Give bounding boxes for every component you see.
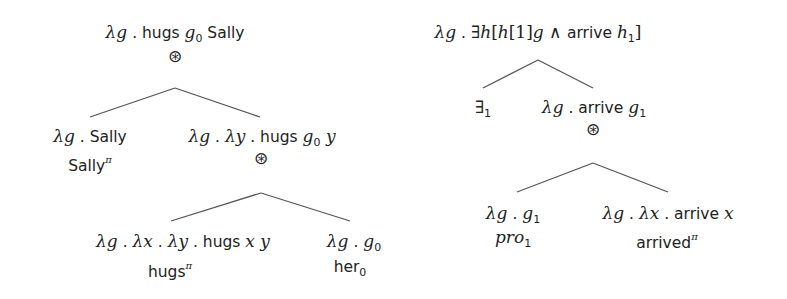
node-arrived-verb-lexical-item: arrivedπ <box>636 227 697 253</box>
tree-arrive-top-left-branch <box>483 60 538 88</box>
node-hugs-verb-segment: λy <box>168 231 188 251</box>
node-hugs-verb-segment: λx <box>133 231 153 251</box>
node-hugs-g0-y-segment: 0 <box>314 136 321 149</box>
node-arrived-verb-segment: . arrive <box>659 205 724 223</box>
node-sally-lexical-item-segment: Sally <box>68 157 105 175</box>
node-hugs-g0-y-segment: y <box>321 126 336 146</box>
node-exists1: ∃1 <box>475 97 491 124</box>
node-arrived-verb-segment: λg <box>602 203 624 223</box>
node-exists1-segment: 1 <box>484 107 491 120</box>
tree-hugs-top-left-branch <box>90 88 175 117</box>
node-her0-lexical-item-segment: 0 <box>359 266 366 279</box>
tree-arrive-root-segment: arrive <box>567 24 617 42</box>
node-sally: λg . Sally <box>53 126 127 147</box>
node-hugs-g0-y-segment: . <box>210 128 225 146</box>
tree-arrive-root: λg . ∃h[h[1]g ∧ arrive h1] <box>435 22 642 49</box>
tree-arrive-root-segment: h <box>617 22 628 42</box>
node-arrived-verb: λg . λx . arrive x <box>602 203 733 224</box>
node-arrived-verb-segment: λx <box>639 203 659 223</box>
node-arrive-g1-composition-operator-icon: ⊛ <box>586 120 600 138</box>
node-hugs-g0-y-composition-operator-icon: ⊛ <box>254 149 268 167</box>
node-pro1-segment: 1 <box>533 213 540 226</box>
node-pro1-lexical-item-segment: pro <box>495 227 524 247</box>
tree-arrive-sub-left-branch <box>517 163 593 192</box>
tree-hugs-root-segment: g <box>185 22 196 42</box>
node-her0-segment: 0 <box>374 241 381 254</box>
node-pro1-lexical-item: pro1 <box>495 227 531 254</box>
tree-arrive-root-segment: g <box>533 22 544 42</box>
node-exists1-segment: ∃ <box>475 97 484 117</box>
tree-arrive-root-segment: λg <box>435 22 457 42</box>
tree-hugs-sub-left-branch <box>171 193 261 221</box>
node-sally-lexical-item: Sallyπ <box>68 150 112 176</box>
node-pro1-segment: λg <box>486 203 508 223</box>
node-sally-segment: λg <box>53 126 75 146</box>
node-hugs-verb-lexical-item-segment: hugs <box>148 263 186 281</box>
node-hugs-g0-y-segment: . hugs <box>245 128 302 146</box>
node-pro1: λg . g1 <box>486 203 540 230</box>
node-sally-segment: . Sally <box>75 128 127 146</box>
node-arrived-verb-lexical-item-segment: π <box>691 231 698 242</box>
tree-arrive-root-segment: ∧ <box>544 22 567 42</box>
node-hugs-verb-lexical-item: hugsπ <box>148 256 192 282</box>
tree-arrive-root-segment: h <box>498 22 509 42</box>
node-her0-lexical-item: her0 <box>334 256 367 283</box>
node-arrived-verb-segment: . <box>624 205 639 223</box>
tree-arrive-root-segment: . <box>456 24 471 42</box>
tree-hugs-root: λg . hugs g0 Sally <box>106 22 245 49</box>
tree-hugs-top-right-branch <box>175 88 260 117</box>
tree-hugs-root-segment: λg <box>106 22 128 42</box>
tree-hugs-root-composition-operator-icon: ⊛ <box>168 47 182 65</box>
tree-hugs-root-segment: 0 <box>195 32 202 45</box>
derivation-diagram: λg . hugs g0 Sally⊛λg . SallySallyπλg . … <box>0 0 787 299</box>
node-pro1-lexical-item-segment: 1 <box>524 237 531 250</box>
node-her0-segment: g <box>363 231 374 251</box>
node-hugs-verb-segment: . <box>153 233 168 251</box>
tree-arrive-root-segment: [1] <box>509 22 533 42</box>
tree-arrive-root-segment: h <box>480 22 491 42</box>
node-hugs-g0-y-segment: λg <box>188 126 210 146</box>
node-hugs-g0-y-segment: g <box>303 126 314 146</box>
tree-arrive-sub-right-branch <box>593 163 668 192</box>
node-pro1-segment: . <box>508 205 523 223</box>
node-hugs-verb-segment: λg <box>96 231 118 251</box>
node-her0: λg . g0 <box>327 231 381 258</box>
node-hugs-g0-y-segment: λy <box>225 126 245 146</box>
tree-arrive-root-segment: ∃ <box>471 22 480 42</box>
tree-arrive-top-right-branch <box>538 60 593 88</box>
node-her0-segment: . <box>349 233 364 251</box>
node-arrive-g1-segment: λg <box>542 97 564 117</box>
node-her0-lexical-item-segment: her <box>334 258 360 276</box>
node-arrive-g1-segment: . arrive <box>564 99 629 117</box>
node-arrived-verb-lexical-item-segment: arrived <box>636 234 691 252</box>
node-arrive-g1-segment: g <box>628 97 639 117</box>
node-hugs-verb-segment: . <box>118 233 133 251</box>
tree-hugs-root-segment: . <box>127 24 142 42</box>
node-hugs-verb: λg . λx . λy . hugs x y <box>96 231 270 252</box>
node-her0-segment: λg <box>327 231 349 251</box>
tree-hugs-root-segment: Sally <box>202 24 244 42</box>
node-sally-lexical-item-segment: π <box>105 154 112 165</box>
node-hugs-verb-lexical-item-segment: π <box>185 260 192 271</box>
node-arrive-g1-segment: 1 <box>639 107 646 120</box>
node-pro1-segment: g <box>522 203 533 223</box>
node-hugs-verb-segment: . hugs <box>188 233 245 251</box>
tree-hugs-root-segment: hugs <box>142 24 185 42</box>
node-arrived-verb-segment: x <box>724 203 734 223</box>
tree-hugs-sub-right-branch <box>261 193 350 221</box>
tree-arrive-root-segment: ] <box>635 22 642 42</box>
node-hugs-verb-segment: x y <box>245 231 270 251</box>
